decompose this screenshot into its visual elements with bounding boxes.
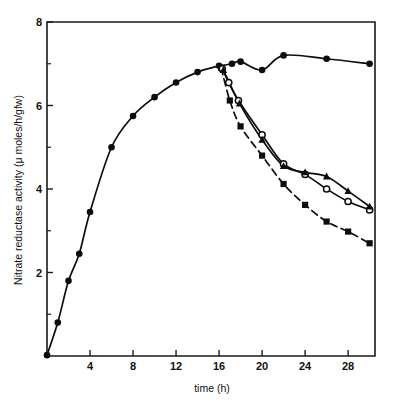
- data-point-filled-circle: [54, 319, 61, 326]
- y-tick-label: 6: [36, 100, 42, 112]
- x-tick-label: 16: [213, 360, 225, 372]
- data-point-filled-circle: [130, 113, 137, 120]
- data-point-filled-square: [280, 181, 286, 187]
- x-tick-label: 12: [170, 360, 182, 372]
- x-tick-label: 28: [342, 360, 354, 372]
- data-point-filled-square: [237, 123, 243, 129]
- x-tick-label: 20: [256, 360, 268, 372]
- data-point-filled-circle: [259, 67, 266, 74]
- data-point-filled-circle: [366, 60, 373, 67]
- data-point-filled-circle: [323, 55, 330, 62]
- y-tick-label: 2: [36, 267, 42, 279]
- x-tick-label: 24: [299, 360, 312, 372]
- data-point-filled-square: [324, 218, 330, 224]
- data-point-filled-square: [302, 202, 308, 208]
- data-point-filled-circle: [65, 278, 72, 285]
- data-point-filled-circle: [173, 79, 180, 86]
- data-point-filled-circle: [44, 352, 51, 359]
- data-point-open-circle: [226, 79, 232, 85]
- data-point-filled-square: [259, 153, 265, 159]
- y-tick-label: 4: [36, 183, 43, 195]
- data-point-open-circle: [345, 198, 351, 204]
- data-point-filled-circle: [194, 69, 201, 76]
- nitrate-reductase-activity-chart: 2468 481216202428 Nitrate reductase acti…: [0, 0, 397, 410]
- chart-background: [0, 0, 397, 410]
- y-axis-title: Nitrate reductase activity (μ moles/h/gf…: [12, 95, 24, 285]
- data-point-filled-circle: [151, 94, 158, 101]
- x-tick-label: 4: [87, 360, 94, 372]
- x-axis-title: time (h): [194, 382, 230, 394]
- x-tick-label: 8: [130, 360, 136, 372]
- data-point-filled-circle: [237, 58, 244, 65]
- figure-container: 2468 481216202428 Nitrate reductase acti…: [0, 0, 397, 410]
- data-point-filled-square: [345, 228, 351, 234]
- data-point-filled-circle: [76, 250, 83, 257]
- data-point-filled-square: [367, 240, 373, 246]
- data-point-filled-circle: [229, 60, 236, 67]
- data-point-filled-circle: [280, 52, 287, 59]
- data-point-open-circle: [324, 186, 330, 192]
- data-point-filled-circle: [87, 209, 94, 216]
- data-point-filled-square: [227, 97, 233, 103]
- y-tick-label: 8: [36, 16, 42, 28]
- data-point-filled-circle: [108, 144, 115, 151]
